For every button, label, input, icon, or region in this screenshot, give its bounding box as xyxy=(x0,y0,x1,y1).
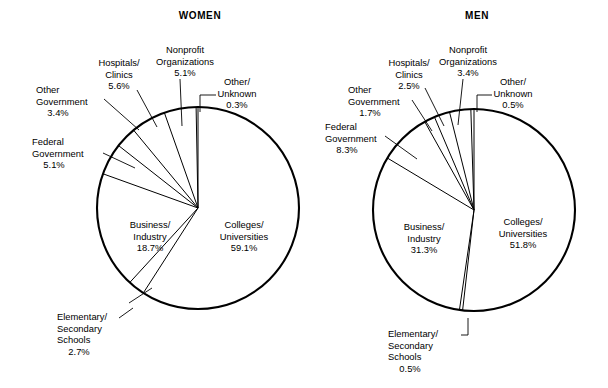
slice-label-line: Schools xyxy=(388,351,422,362)
slice-label-line: Schools xyxy=(57,334,91,345)
chart-title-men: MEN xyxy=(465,10,489,21)
slice-label-line: Unknown xyxy=(493,88,532,99)
slice-label-line: Federal xyxy=(32,136,64,147)
slice-value: 59.1% xyxy=(231,242,258,253)
slice-value: 18.7% xyxy=(137,242,164,253)
slice-value: 51.8% xyxy=(510,239,537,250)
chart-title-women: WOMEN xyxy=(179,10,221,21)
slice-label-line: Other xyxy=(36,84,59,95)
slice-label-line: Government xyxy=(348,96,400,107)
slice-label-line: Nonprofit xyxy=(166,44,204,55)
slice-label-line: Secondary xyxy=(57,323,102,334)
slice-label-line: Other/ xyxy=(224,76,250,87)
slice-label-line: Universities xyxy=(499,228,548,239)
slice-value: 0.3% xyxy=(226,99,247,110)
slice-label-line: Business/ xyxy=(130,219,171,230)
slice-value: 3.4% xyxy=(457,67,478,78)
slice-label-line: Universities xyxy=(220,231,269,242)
slice-label-line: Federal xyxy=(325,121,357,132)
slice-label-line: Clinics xyxy=(395,69,423,80)
slice-value: 5.1% xyxy=(174,67,195,78)
slice-label-line: Nonprofit xyxy=(449,44,487,55)
slice-value: 2.5% xyxy=(398,80,419,91)
slice-label-line: Elementary/ xyxy=(388,328,438,339)
slice-label-line: Industry xyxy=(133,231,167,242)
slice-value: 8.3% xyxy=(336,144,357,155)
slice-label-line: Hospitals/ xyxy=(388,57,430,68)
slice-label-line: Unknown xyxy=(217,88,256,99)
slice-label-line: Elementary/ xyxy=(57,311,107,322)
slice-label-line: Colleges/ xyxy=(224,219,263,230)
pie-chart-figure: WOMENColleges/Universities 59.1%Elementa… xyxy=(0,0,608,388)
slice-label-line: Clinics xyxy=(105,69,133,80)
slice-value: 5.1% xyxy=(43,159,64,170)
slice-value: 31.3% xyxy=(411,244,438,255)
slice-label-line: Organizations xyxy=(156,56,214,67)
slice-label-line: Other/ xyxy=(500,76,526,87)
slice-value: 3.4% xyxy=(47,107,68,118)
slice-label-line: Government xyxy=(325,133,377,144)
slice-value: 5.6% xyxy=(108,80,129,91)
slice-value: 2.7% xyxy=(68,346,89,357)
slice-label-line: Hospitals/ xyxy=(98,57,140,68)
slice-label-line: Government xyxy=(36,96,88,107)
slice-label-line: Government xyxy=(32,148,84,159)
slice-value: 0.5% xyxy=(502,99,523,110)
slice-label-line: Industry xyxy=(407,233,441,244)
slice-label-line: Organizations xyxy=(439,56,497,67)
slice-value: 1.7% xyxy=(359,107,380,118)
slice-label-line: Colleges/ xyxy=(503,216,542,227)
slice-label-line: Business/ xyxy=(404,221,445,232)
slice-label-line: Secondary xyxy=(388,340,433,351)
slice-value: 0.5% xyxy=(399,363,420,374)
slice-label-line: Other xyxy=(348,84,371,95)
